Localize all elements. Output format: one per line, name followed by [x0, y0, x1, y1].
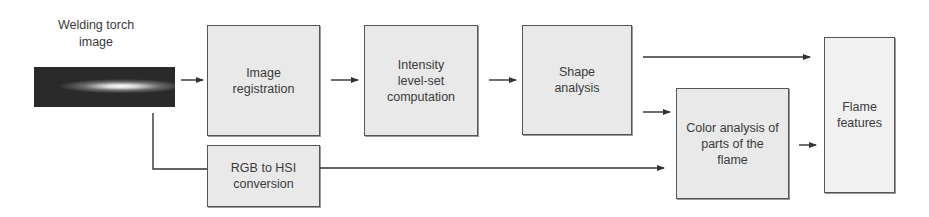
- connector-layer: [0, 0, 929, 217]
- line-torch-to-rgb: [153, 113, 207, 169]
